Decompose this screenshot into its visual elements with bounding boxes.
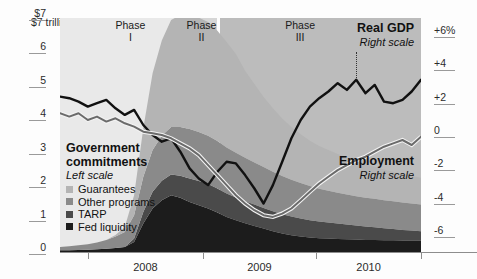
x-axis-label: 2010 [339,261,399,273]
legend-title-line2: commitments [66,156,155,170]
callout-employment: Employment Right scale [339,155,414,181]
legend-government-commitments: Government commitments Left scale Guaran… [66,142,155,233]
callout-real-gdp-leader [356,52,357,78]
phase-caption: PhaseII [172,20,232,43]
callout-employment-name: Employment [339,155,414,169]
y-tick-left: 3 [12,141,46,155]
legend-swatch [66,211,73,218]
legend-swatch [66,186,73,193]
y-tick-right: 0 [434,124,455,138]
x-axis-label: 2008 [116,261,176,273]
legend-item: Fed liquidity [66,221,155,234]
y-tick-right: +6% [434,24,455,38]
y-tick-right: +4 [434,57,455,71]
chart-container: $7 trillion $76543210 +6%+4+20-2-4-6 200… [0,0,477,279]
y-tick-right: +2 [434,91,455,105]
x-tick-mark [316,253,317,259]
y-tick-left: 5 [12,74,46,88]
x-axis-line [60,252,477,253]
y-tick-left: 6 [12,40,46,54]
callout-real-gdp-name: Real GDP [357,22,414,36]
legend-item-label: TARP [78,208,107,221]
x-tick-mark [88,253,89,259]
legend-item: Guarantees [66,183,155,196]
legend-items: GuaranteesOther programsTARPFed liquidit… [66,183,155,233]
x-tick-mark [421,253,422,259]
legend-item: Other programs [66,196,155,209]
callout-employment-scale: Right scale [339,169,414,182]
callout-real-gdp-scale: Right scale [357,36,414,49]
y-tick-left: 0 [12,241,46,255]
phase-caption: PhaseIII [270,20,330,43]
y-tick-left: 2 [12,174,46,188]
y-tick-left: 4 [12,107,46,121]
y-tick-left: $7 [12,7,46,21]
y-tick-right: -4 [434,191,455,205]
legend-item-label: Fed liquidity [78,221,137,234]
legend-scale-note: Left scale [66,169,155,182]
y-tick-left: 1 [12,208,46,222]
phase-caption: PhaseI [100,20,160,43]
legend-swatch [66,223,73,230]
legend-item-label: Guarantees [78,183,135,196]
legend-swatch [66,198,73,205]
legend-title-line1: Government [66,142,155,156]
legend-item: TARP [66,208,155,221]
legend-item-label: Other programs [78,196,155,209]
callout-real-gdp: Real GDP Right scale [357,22,414,48]
y-tick-right: -6 [434,224,455,238]
x-tick-mark [203,253,204,259]
x-axis-label: 2009 [230,261,290,273]
y-tick-right: -2 [434,157,455,171]
